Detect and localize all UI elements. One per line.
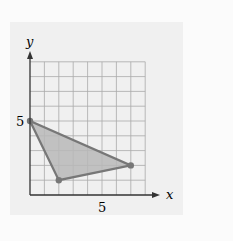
- x-axis-arrow-icon: [152, 192, 160, 198]
- vertex-point: [56, 177, 62, 183]
- y-axis-label: y: [25, 34, 34, 49]
- vertex-point: [128, 162, 134, 168]
- x-tick-label-5: 5: [98, 200, 106, 215]
- x-axis-label: x: [166, 187, 174, 202]
- y-axis-arrow-icon: [27, 51, 33, 59]
- coordinate-plane: x y 5 5: [0, 0, 233, 241]
- y-tick-label-5: 5: [16, 114, 24, 129]
